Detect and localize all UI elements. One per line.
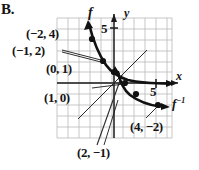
y-axis-label: y <box>124 7 129 19</box>
curve-label-f: f <box>88 6 93 20</box>
x-axis-label: x <box>176 70 182 82</box>
point-label-1-0: (1, 0) <box>44 91 70 104</box>
data-point-neg1-2 <box>100 58 106 64</box>
data-point-0-1 <box>111 69 117 75</box>
curve-label-f-inverse: f−1 <box>172 97 185 110</box>
x-tick-label-5: 5 <box>150 85 157 98</box>
data-point-1-0 <box>122 80 128 86</box>
data-point-neg2-4 <box>89 36 95 42</box>
point-label-neg2-4: (−2, 4) <box>26 27 59 40</box>
point-label-neg1-2: (−1, 2) <box>12 44 45 57</box>
data-point-4-neg2 <box>155 102 161 108</box>
data-point-2-neg1 <box>133 91 139 97</box>
point-label-2-neg1: (2, −1) <box>77 146 110 159</box>
curve-f-arrow-top <box>84 20 93 30</box>
curve-f-arrow-right <box>166 80 175 87</box>
curve-label-f-inverse-exponent: −1 <box>176 96 185 105</box>
line-of-symmetry <box>78 50 147 119</box>
y-tick-label-5: 5 <box>101 22 108 35</box>
curve-f-inverse-arrow-right <box>161 103 170 110</box>
graph-figure: B. f f−1 y x 5 5 (−2, 4) (−1, 2) (0, 1) … <box>0 0 199 170</box>
problem-label: B. <box>1 2 14 17</box>
point-label-0-1: (0, 1) <box>46 62 72 75</box>
point-label-4-neg2: (4, −2) <box>130 120 163 133</box>
